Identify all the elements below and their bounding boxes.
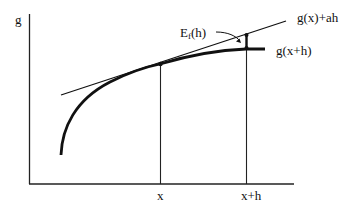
- tangent-point: [158, 62, 162, 66]
- error-label-main: E: [180, 25, 188, 40]
- error-label: Ef(h): [180, 26, 206, 41]
- diagram-canvas: [0, 0, 354, 209]
- xh-tick-label: x+h: [241, 189, 261, 202]
- g-curve: [61, 49, 265, 155]
- curve-label-xh: g(x+h): [276, 44, 312, 57]
- tangent-line: [61, 21, 286, 95]
- tangent-label: g(x)+ah: [297, 11, 338, 24]
- y-axis-label: g: [15, 13, 22, 26]
- x-tick-label: x: [157, 189, 164, 202]
- error-label-arg: (h): [191, 25, 206, 40]
